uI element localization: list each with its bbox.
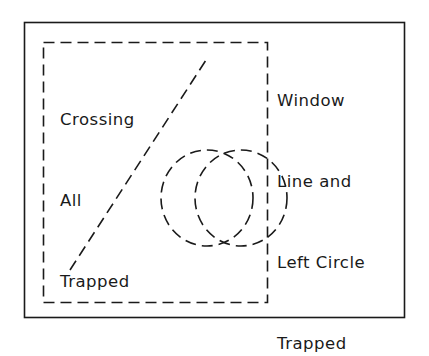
window-label-line: Trapped	[277, 330, 365, 356]
crossing-label-line: Trapped	[60, 268, 135, 295]
crossing-label: Crossing All Trapped	[60, 52, 135, 322]
window-label: Window Line and Left Circle Trapped	[277, 33, 365, 356]
crossing-label-line: All	[60, 187, 135, 214]
window-label-line: Line and	[277, 168, 365, 195]
window-label-line: Window	[277, 87, 365, 114]
crossing-label-line: Crossing	[60, 106, 135, 133]
left-circle-object	[161, 150, 253, 246]
window-label-line: Left Circle	[277, 249, 365, 276]
right-circle-object	[195, 150, 287, 246]
